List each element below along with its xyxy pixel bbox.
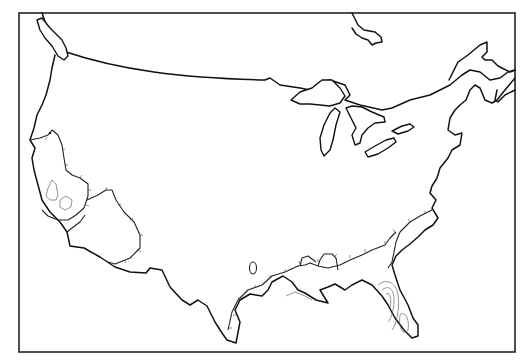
lake-michigan xyxy=(320,108,340,156)
map-figure xyxy=(0,0,530,361)
lake-huron xyxy=(346,106,385,145)
nova-scotia-outline xyxy=(495,90,515,102)
lake-erie xyxy=(365,138,396,157)
hatch-ticks xyxy=(45,137,425,328)
southwest-desert-region xyxy=(87,190,140,264)
ca-contour-1 xyxy=(46,180,58,200)
us-map-drawing xyxy=(0,0,530,361)
southwest-inner-line xyxy=(67,215,85,232)
lake-superior xyxy=(291,80,345,106)
california-valley-region xyxy=(30,130,88,220)
gulf-contour-line xyxy=(286,292,312,300)
james-bay-outline xyxy=(352,13,382,45)
lake-ontario xyxy=(392,124,414,134)
ca-contour-2 xyxy=(60,196,72,210)
gulf-coast-band xyxy=(228,232,396,330)
us-outline xyxy=(30,13,515,343)
inland-oval xyxy=(250,262,257,274)
map-dot xyxy=(49,132,51,134)
vancouver-island xyxy=(37,18,68,60)
map-frame xyxy=(19,13,515,352)
